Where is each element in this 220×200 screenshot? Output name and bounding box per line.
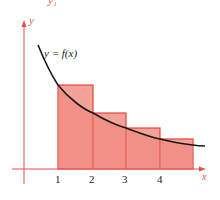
x-tick-1: 1: [55, 173, 61, 185]
x-axis-label: x: [201, 171, 207, 182]
riemann-sum-diagram: y₁ y x y = f(x) 1 2 3 4: [0, 0, 220, 200]
top-partial-label: y₁: [47, 0, 57, 6]
y-axis-label: y: [28, 14, 34, 26]
x-tick-2: 2: [89, 173, 95, 185]
x-tick-4: 4: [157, 173, 163, 185]
curve-label: y = f(x): [43, 47, 77, 60]
y-axis-arrow-icon: [22, 20, 27, 27]
x-tick-3: 3: [122, 173, 128, 185]
